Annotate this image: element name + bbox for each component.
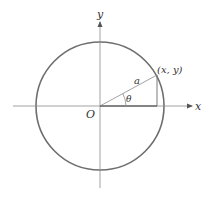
angle-label: θ [126,94,132,104]
origin-label: O [86,108,95,121]
radius-label: a [134,75,140,86]
x-axis-label: x [195,100,202,113]
point-label: (x, y) [157,64,183,75]
y-axis-label: y [96,8,104,21]
polar-coordinate-diagram: y x O a θ (x, y) [0,0,208,200]
diagram-canvas: y x O a θ (x, y) [0,0,208,200]
